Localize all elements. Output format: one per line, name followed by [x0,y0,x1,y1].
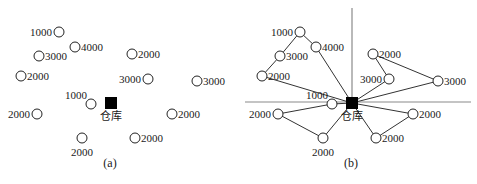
demand-label: 3000 [203,75,226,87]
customer-node: 2000 [408,108,442,120]
demand-label: 1000 [30,26,53,38]
customer-circle-icon [275,51,285,61]
customer-node: 3000 [192,75,226,87]
customer-node: 2000 [16,70,50,82]
vehicle-routing-diagram: 1000400030002000200030003000100020002000… [0,0,477,184]
demand-label: 3000 [444,75,467,87]
customer-node: 1000 [30,26,64,38]
demand-label: 3000 [286,50,309,62]
warehouse-square-icon [346,97,358,109]
customer-circle-icon [143,74,153,84]
demand-label: 1000 [271,26,294,38]
demand-label: 3000 [119,73,142,85]
customer-circle-icon [32,109,42,119]
customer-circle-icon [318,133,328,143]
customer-node: 2000 [130,132,164,144]
customer-circle-icon [311,42,321,52]
demand-label: 2000 [268,70,291,82]
customer-node: 3000 [119,73,153,85]
panel-caption: (b) [344,156,358,170]
demand-label: 2000 [249,108,272,120]
customer-node: 3000 [433,75,467,87]
customer-circle-icon [408,109,418,119]
demand-label: 4000 [322,41,345,53]
customer-circle-icon [86,99,96,109]
customer-circle-icon [77,133,87,143]
demand-label: 2000 [8,108,31,120]
customer-node: 2000 [257,70,291,82]
demand-label: 2000 [27,70,50,82]
customer-circle-icon [34,51,44,61]
customer-circle-icon [384,74,394,84]
demand-label: 2000 [138,48,161,60]
demand-label: 3000 [360,73,383,85]
customer-node: 4000 [70,41,104,53]
panel-a-customer-layout: 1000400030002000200030003000100020002000… [8,26,226,170]
panel-b-routing-solution: 1000400030002000200030003000100020002000… [245,8,471,170]
demand-label: 2000 [141,132,164,144]
customer-node: 2000 [167,108,201,120]
customer-node: 3000 [275,50,309,62]
customer-circle-icon [130,133,140,143]
customer-node: 2000 [312,133,335,158]
demand-label: 2000 [71,146,94,158]
customer-circle-icon [295,27,305,37]
customer-node: 2000 [368,48,402,60]
customer-circle-icon [257,71,267,81]
customer-node: 2000 [8,108,42,120]
demand-label: 3000 [45,50,68,62]
customer-node: 3000 [360,73,394,85]
customer-circle-icon [16,71,26,81]
customer-circle-icon [127,49,137,59]
demand-label: 2000 [178,108,201,120]
customer-circle-icon [327,99,337,109]
customer-node: 1000 [65,89,96,109]
warehouse-node: 仓库 [100,97,122,123]
customer-circle-icon [368,49,378,59]
demand-label: 1000 [306,89,329,101]
customer-node: 3000 [34,50,68,62]
demand-label: 2000 [419,108,442,120]
customer-node: 2000 [249,108,283,120]
customer-circle-icon [371,133,381,143]
customer-node: 2000 [371,132,405,144]
customer-circle-icon [273,109,283,119]
customer-circle-icon [433,76,443,86]
warehouse-label: 仓库 [341,109,363,123]
demand-label: 4000 [81,41,104,53]
customer-circle-icon [54,27,64,37]
demand-label: 1000 [65,89,88,101]
customer-circle-icon [167,109,177,119]
customer-node: 1000 [271,26,305,38]
warehouse-label: 仓库 [100,109,122,123]
customer-node: 2000 [127,48,161,60]
customer-circle-icon [70,42,80,52]
warehouse-square-icon [105,97,117,109]
demand-label: 2000 [312,146,335,158]
demand-label: 2000 [379,48,402,60]
customer-node: 2000 [71,133,94,158]
demand-label: 2000 [382,132,405,144]
panel-caption: (a) [103,156,116,170]
customer-circle-icon [192,76,202,86]
customer-node: 4000 [311,41,345,53]
